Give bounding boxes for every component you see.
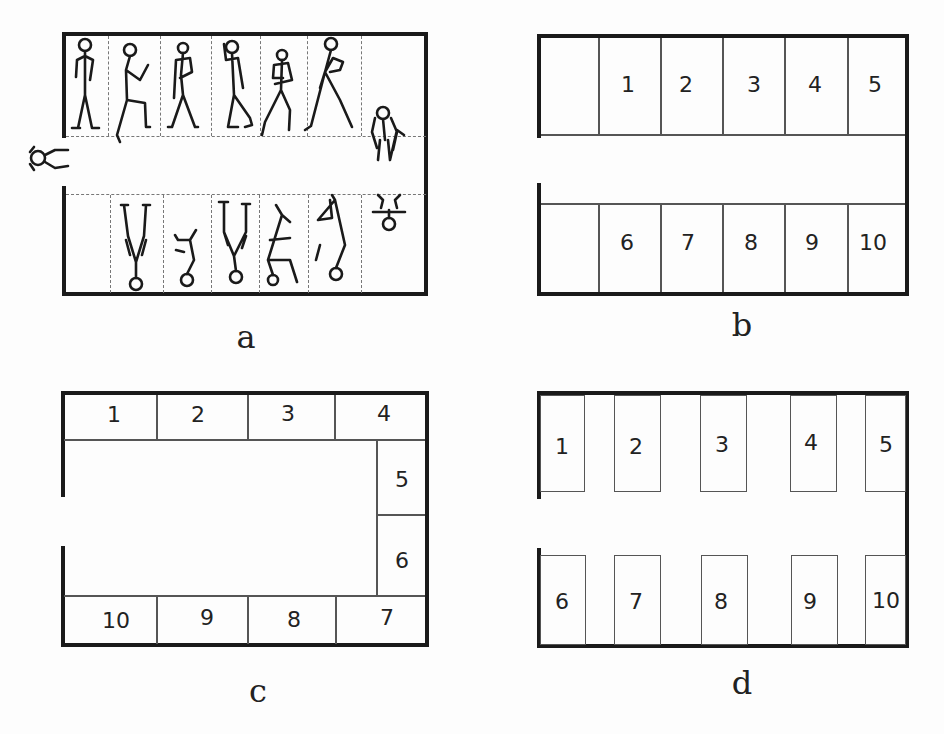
panel-d-stall-label: 4 <box>804 430 818 455</box>
panel-d-stall-label: 7 <box>629 589 643 614</box>
panel-d-stall-label: 6 <box>555 589 569 614</box>
panel-d-stall-label: 3 <box>715 432 729 457</box>
panel-d-stall-label: 9 <box>803 589 817 614</box>
panel-d-stall-label: 8 <box>714 589 728 614</box>
panel-d: 1 2 3 4 5 6 7 8 9 10 d <box>0 0 944 734</box>
panel-d-stall-label: 10 <box>872 588 900 613</box>
panel-d-stall-label: 5 <box>879 432 893 457</box>
panel-d-stall-label: 2 <box>629 434 643 459</box>
panel-d-stall-label: 1 <box>555 434 569 459</box>
panel-d-caption: d <box>732 664 752 702</box>
